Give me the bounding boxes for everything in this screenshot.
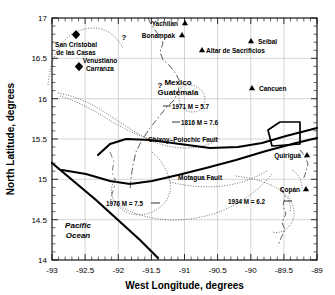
label-altar-de-sacrificios: Altar de Sacrificios — [206, 47, 265, 54]
x-tick-label-8: -89 — [311, 266, 323, 275]
x-tick-label-4: -91 — [179, 266, 191, 275]
x-tick-label-6: -90 — [245, 266, 257, 275]
label-chixoy-polochic-fault: Chixoy–Polochic Fault — [148, 136, 219, 144]
label-san-cristobal-line1: San Cristobal — [55, 41, 97, 48]
seismotectonic-map-figure: Mexico Guatemala San Cristobal de las Ca… — [0, 0, 335, 295]
label-bonampak: Bonampak — [142, 32, 176, 40]
x-tick-label-0: -93 — [46, 266, 58, 275]
label-cancuen: Cancuen — [259, 85, 286, 92]
x-tick-label-7: -89.5 — [275, 266, 294, 275]
x-tick-label-5: -90.5 — [208, 266, 227, 275]
label-question-mark-northwest: ? — [122, 33, 127, 42]
y-tick-label-3: 15.5 — [31, 135, 47, 144]
label-motagua-fault: Motagua Fault — [178, 174, 223, 182]
label-eq-1976: 1976 M = 7.5 — [106, 200, 143, 207]
y-tick-label-1: 16.5 — [31, 54, 47, 63]
label-pacific-ocean-line1: Pacific — [65, 221, 91, 230]
label-eq-1971: 1971 M = 5.7 — [172, 103, 209, 110]
label-san-cristobal-line2: de las Casas — [56, 49, 96, 56]
y-tick-label-2: 16 — [38, 95, 47, 104]
label-eq-1816: 1816 M = 7.6 — [181, 119, 218, 126]
label-mexico: Mexico — [164, 78, 191, 87]
label-copan: Copán — [280, 186, 300, 194]
label-pacific-ocean-line2: Ocean — [66, 231, 91, 240]
label-venustiano-line1: Venustiano — [83, 57, 118, 64]
label-question-mark-central: ? — [158, 81, 163, 90]
map-svg: Mexico Guatemala San Cristobal de las Ca… — [0, 0, 335, 295]
label-quirigua: Quiriguá — [274, 152, 301, 160]
x-tick-label-3: -91.5 — [142, 266, 161, 275]
x-tick-label-1: -92.5 — [76, 266, 95, 275]
x-axis-title: West Longitude, degrees — [125, 280, 244, 291]
label-guatemala: Guatemala — [158, 88, 199, 97]
label-eq-1934: 1934 M = 6.2 — [228, 198, 265, 205]
y-tick-label-6: 14 — [38, 256, 47, 265]
y-tick-label-4: 15 — [38, 175, 47, 184]
label-seibal: Seibal — [258, 38, 277, 45]
x-tick-label-2: -92 — [113, 266, 125, 275]
y-tick-label-5: 14.5 — [31, 216, 47, 225]
y-tick-label-0: 17 — [38, 14, 47, 23]
label-venustiano-line2: Carranza — [86, 65, 114, 72]
y-axis-title: North Latitude, degrees — [5, 82, 16, 195]
